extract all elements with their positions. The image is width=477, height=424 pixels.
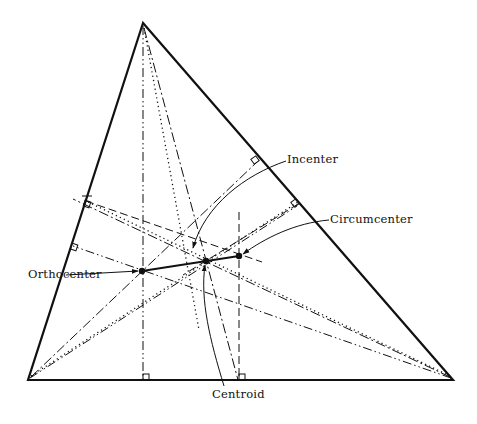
leader-lines <box>66 161 329 386</box>
label-orthocenter: Orthocenter <box>28 267 102 281</box>
medians <box>31 28 450 376</box>
centroid-point <box>203 258 209 264</box>
incenter-leader <box>193 161 286 248</box>
label-circumcenter: Circumcenter <box>330 212 413 226</box>
median-from-B <box>31 202 298 376</box>
altitude-from-B <box>30 206 297 378</box>
angle-bisector-A <box>144 28 238 380</box>
median-from-C <box>86 201 450 376</box>
orthocenter-point <box>139 268 145 274</box>
triangle <box>28 23 453 380</box>
right-angle-markers <box>70 156 299 380</box>
circumcenter-point <box>236 253 242 259</box>
centroid-leader <box>204 265 224 386</box>
euler-line <box>142 256 239 271</box>
perp-bisector-AB <box>86 201 262 262</box>
label-centroid: Centroid <box>212 387 265 401</box>
circumcenter-leader <box>243 220 329 254</box>
label-incenter: Incenter <box>287 152 338 166</box>
angle-bisectors <box>31 28 450 380</box>
